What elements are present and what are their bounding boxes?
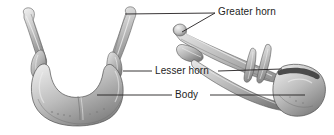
leader-greater-horn-lateral [182, 13, 215, 32]
leader-greater-horn-anterior [125, 13, 215, 14]
lateral-body [273, 64, 326, 116]
anterior-view-hyoid [23, 7, 136, 126]
label-body: Body [175, 90, 198, 100]
hyoid-bone-anatomy-figure: Greater horn Lesser horn Body [0, 0, 334, 135]
label-greater-horn: Greater horn [218, 7, 276, 17]
label-lesser-horn: Lesser horn [155, 66, 209, 76]
lateral-greater-horn-tip [174, 24, 187, 36]
